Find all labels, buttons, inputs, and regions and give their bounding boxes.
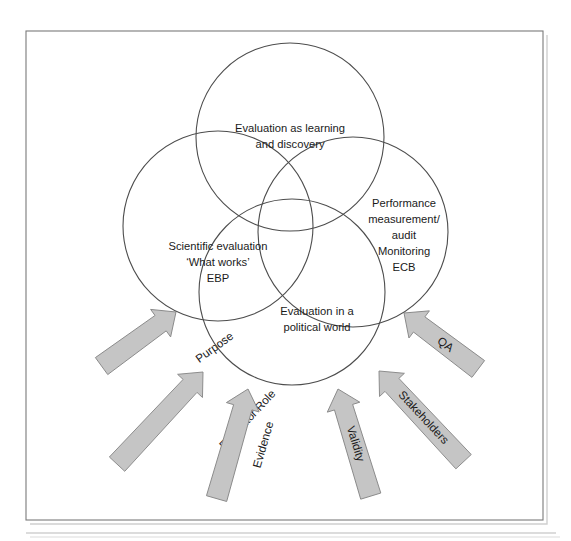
figure-frame (26, 31, 543, 520)
label-political-world-line2: political world (283, 321, 350, 333)
evaluation-venn-diagram: Purpose Evaluator Role Evidence Validity… (0, 0, 571, 541)
figure-root: Purpose Evaluator Role Evidence Validity… (0, 0, 571, 541)
label-political-world-line1: Evaluation in a (280, 305, 354, 317)
label-scientific-evaluation-line3: EBP (207, 272, 229, 284)
label-performance-measurement-line4: Monitoring (378, 245, 430, 257)
label-learning-discovery-line1: Evaluation as learning (235, 122, 345, 134)
label-learning-discovery-line2: and discovery (255, 138, 324, 150)
label-performance-measurement-line2: measurement/ (368, 213, 440, 225)
label-performance-measurement-line3: audit (392, 229, 417, 241)
label-scientific-evaluation-line1: Scientific evaluation (169, 240, 268, 252)
label-scientific-evaluation-line2: ‘What works’ (186, 256, 249, 268)
label-performance-measurement-line5: ECB (392, 261, 415, 273)
label-performance-measurement-line1: Performance (372, 197, 436, 209)
